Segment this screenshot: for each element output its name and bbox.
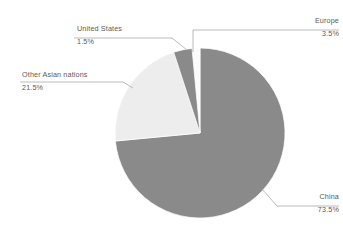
pie-chart-figure: Europe 3.5% United States 1.5% Other Asi… [0,0,343,237]
callout-category-other-asian-nations: Other Asian nations [22,70,88,82]
callout-label-europe: Europe 3.5% [315,16,339,40]
callout-label-china: China 73.5% [318,192,339,216]
callout-value-other-asian-nations: 21.5% [22,82,88,94]
pie-chart-graphic [0,0,343,237]
callout-value-europe: 3.5% [315,28,339,40]
callout-category-china: China [318,192,339,204]
callout-label-other-asian-nations: Other Asian nations 21.5% [22,70,88,94]
callout-label-united-states: United States 1.5% [77,24,122,48]
callout-value-united-states: 1.5% [77,36,122,48]
callout-category-united-states: United States [77,24,122,36]
callout-value-china: 73.5% [318,204,339,216]
callout-category-europe: Europe [315,16,339,28]
